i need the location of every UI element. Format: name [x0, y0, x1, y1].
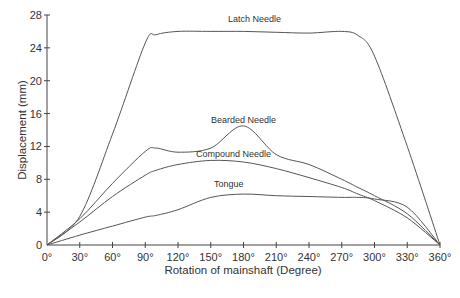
x-axis-title: Rotation of mainshaft (Degree) [164, 264, 321, 276]
y-tick-label: 16 [30, 108, 42, 120]
x-tick-label: 120° [167, 251, 190, 263]
y-axis-title: Displacement (mm) [16, 80, 28, 180]
x-tick-label: 150° [199, 251, 222, 263]
x-tick-label: 270° [330, 251, 353, 263]
x-tick-label: 300° [363, 251, 386, 263]
y-tick-label: 28 [30, 9, 42, 21]
label-compound-needle: Compound Needle [196, 149, 271, 159]
curve-latch-needle [47, 31, 440, 245]
displacement-line-chart: 0°30°60°90°120°150°180°210°240°270°300°3… [0, 0, 460, 298]
label-bearded-needle: Bearded Needle [211, 115, 276, 125]
x-tick-label: 30° [71, 251, 88, 263]
x-tick-label: 60° [104, 251, 121, 263]
curve-compound-needle [47, 160, 440, 245]
y-tick-label: 20 [30, 75, 42, 87]
y-tick-label: 4 [36, 206, 42, 218]
x-tick-label: 360° [429, 251, 452, 263]
label-tongue: Tongue [214, 179, 244, 189]
label-latch-needle: Latch Needle [228, 14, 281, 24]
y-tick-label: 12 [30, 140, 42, 152]
x-tick-label: 0° [42, 251, 53, 263]
y-tick-label: 24 [30, 42, 42, 54]
x-tick-label: 210° [265, 251, 288, 263]
axes: 0°30°60°90°120°150°180°210°240°270°300°3… [30, 9, 452, 263]
x-tick-label: 180° [232, 251, 255, 263]
x-tick-label: 240° [298, 251, 321, 263]
x-tick-label: 330° [396, 251, 419, 263]
curves [47, 31, 440, 245]
y-tick-label: 8 [36, 173, 42, 185]
x-tick-label: 90° [137, 251, 154, 263]
y-tick-label: 0 [36, 239, 42, 251]
